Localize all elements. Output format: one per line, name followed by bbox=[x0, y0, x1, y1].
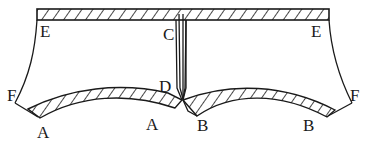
label-f-left: F bbox=[7, 87, 16, 104]
center-slit bbox=[179, 14, 186, 99]
label-a-left: A bbox=[37, 124, 49, 141]
label-a-right: A bbox=[146, 116, 158, 133]
label-e-left: E bbox=[40, 23, 50, 40]
label-b-left: B bbox=[197, 117, 208, 134]
label-e-right: E bbox=[311, 23, 321, 40]
label-c: C bbox=[163, 26, 174, 43]
label-d: D bbox=[159, 78, 171, 95]
label-b-right: B bbox=[303, 117, 314, 134]
label-f-right: F bbox=[350, 87, 359, 104]
right-leg-facing bbox=[183, 88, 335, 117]
